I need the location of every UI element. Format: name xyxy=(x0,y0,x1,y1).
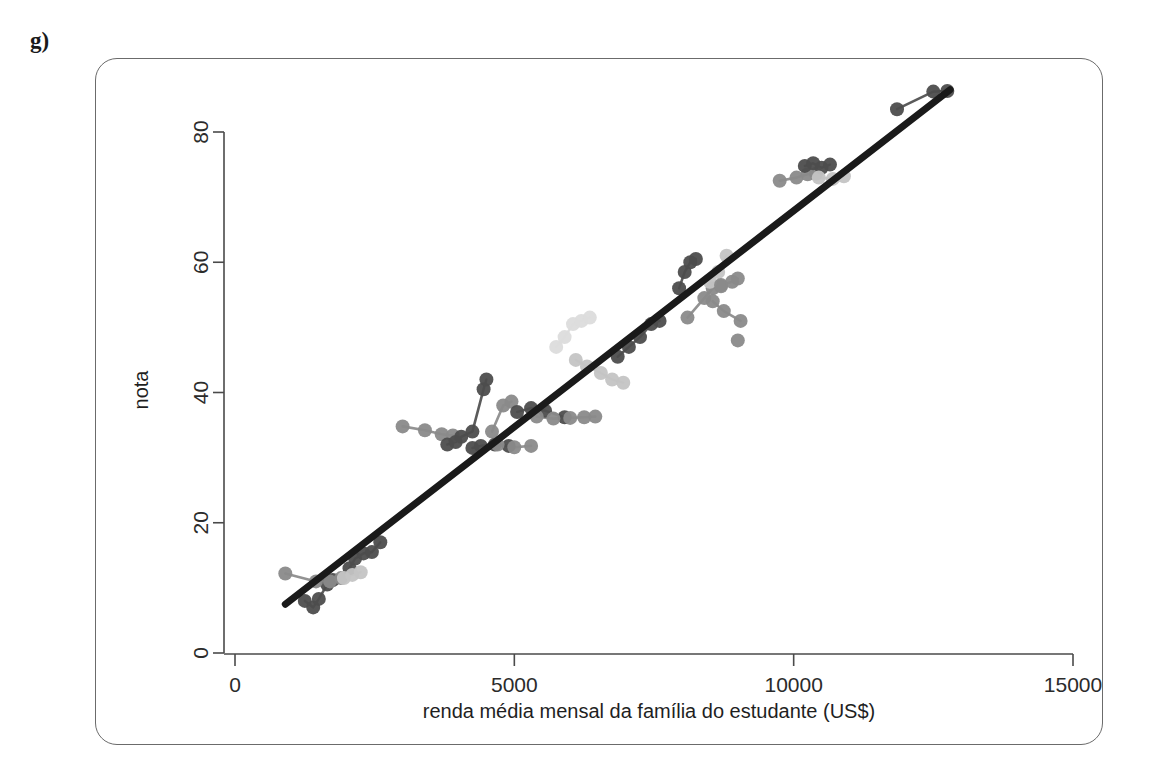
data-point xyxy=(731,333,745,347)
y-tick-label-0: 0 xyxy=(189,647,212,659)
data-point xyxy=(507,440,521,454)
data-point xyxy=(689,252,703,266)
data-point xyxy=(588,410,602,424)
data-point xyxy=(465,425,479,439)
y-axis-tick-labels: 020406080 xyxy=(189,120,212,659)
y-tick-label-80: 80 xyxy=(189,120,212,143)
data-point xyxy=(312,592,326,606)
data-point xyxy=(773,174,787,188)
data-point xyxy=(731,272,745,286)
data-point xyxy=(717,304,731,318)
data-point xyxy=(890,102,904,116)
data-point xyxy=(546,412,560,426)
data-point xyxy=(583,311,597,325)
data-point xyxy=(706,294,720,308)
data-point xyxy=(823,158,837,172)
data-point xyxy=(479,373,493,387)
data-point xyxy=(396,419,410,433)
data-point xyxy=(354,565,368,579)
figure-page: g) 020406080 050001000015000 nota renda … xyxy=(0,0,1160,776)
data-point xyxy=(681,311,695,325)
data-point xyxy=(278,567,292,581)
data-point xyxy=(524,439,538,453)
x-axis-title: renda média mensal da família do estudan… xyxy=(423,700,875,722)
x-tick-label-5000: 5000 xyxy=(491,673,538,696)
y-axis-ticks xyxy=(213,132,224,653)
x-axis-tick-labels: 050001000015000 xyxy=(229,673,1102,696)
axes-group xyxy=(213,132,1073,666)
x-tick-label-15000: 15000 xyxy=(1044,673,1102,696)
y-axis-title: nota xyxy=(130,370,152,410)
data-point xyxy=(734,314,748,328)
x-axis-ticks xyxy=(235,654,1073,666)
x-tick-label-0: 0 xyxy=(229,673,241,696)
y-tick-label-60: 60 xyxy=(189,251,212,274)
data-point xyxy=(616,376,630,390)
y-tick-label-20: 20 xyxy=(189,511,212,534)
x-tick-label-10000: 10000 xyxy=(764,673,822,696)
data-point xyxy=(812,171,826,185)
data-point xyxy=(563,411,577,425)
scatter-chart: 020406080 050001000015000 nota renda méd… xyxy=(0,0,1160,776)
regression-line xyxy=(285,90,950,605)
data-point xyxy=(558,330,572,344)
y-tick-label-40: 40 xyxy=(189,381,212,404)
data-point xyxy=(418,423,432,437)
